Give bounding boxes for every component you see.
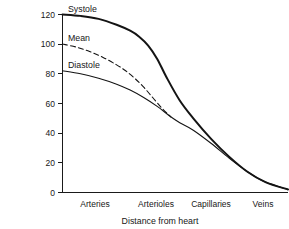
x-category-label-capillaries: Capillaries	[191, 199, 231, 209]
x-category-label-veins: Veins	[253, 199, 274, 209]
y-tick-label-100: 100	[41, 39, 55, 49]
chart-background	[0, 0, 289, 229]
series-label-systole: Systole	[68, 4, 97, 14]
y-tick-label-80: 80	[46, 69, 56, 79]
y-tick-label-0: 0	[50, 188, 55, 198]
x-category-label-arteries: Arteries	[80, 199, 109, 209]
series-label-diastole: Diastole	[68, 60, 100, 70]
x-category-label-arterioles: Arterioles	[138, 199, 174, 209]
blood-pressure-chart: 0 20 40 60 80 100 120 Systole Mean Diast…	[0, 0, 289, 229]
chart-svg: 0 20 40 60 80 100 120 Systole Mean Diast…	[0, 0, 289, 229]
x-axis-title: Distance from heart	[122, 216, 199, 226]
y-tick-label-20: 20	[46, 158, 56, 168]
series-label-mean: Mean	[68, 33, 90, 43]
y-tick-label-60: 60	[46, 99, 56, 109]
y-tick-label-40: 40	[46, 128, 56, 138]
y-tick-label-120: 120	[41, 10, 55, 20]
